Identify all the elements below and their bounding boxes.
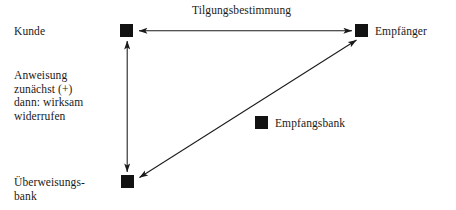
edge-label-anweisung: Anweisung zunächst (+) dann: wirksam wid… bbox=[14, 69, 83, 123]
edge-label-tilgungsbestimmung: Tilgungsbestimmung bbox=[192, 4, 291, 18]
arrow-ueberweisungsbank-empfaenger bbox=[140, 40, 357, 178]
diagram-canvas: Kunde Empfänger Empfangsbank Überweisung… bbox=[0, 0, 456, 210]
node-ueberweisungsbank bbox=[121, 175, 134, 188]
node-label-empfangsbank: Empfangsbank bbox=[275, 117, 345, 131]
node-empfaenger bbox=[355, 24, 368, 37]
node-empfangsbank bbox=[255, 116, 268, 129]
node-label-ueberweisungsbank: Überweisungs- bank bbox=[14, 176, 85, 203]
node-label-kunde: Kunde bbox=[14, 25, 45, 39]
node-kunde bbox=[120, 24, 133, 37]
node-label-empfaenger: Empfänger bbox=[375, 25, 427, 39]
